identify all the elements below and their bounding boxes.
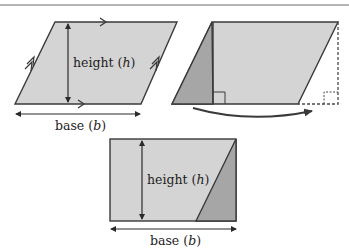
move-arrow-icon (193, 108, 312, 117)
rectangle-panel: height (h) base (b) (110, 139, 236, 248)
rect-height-label: height (h) (147, 172, 209, 187)
rect-base-label: base (b) (150, 233, 201, 248)
parallelogram-panel: height (h) base (b) (15, 18, 177, 133)
cut-and-move-panel (172, 22, 338, 117)
right-angle-marker-dashed-icon (324, 92, 338, 104)
parallelogram-area-diagram: height (h) base (b) height (h) (0, 0, 349, 251)
cut-triangle (172, 22, 213, 104)
base-label: base (b) (55, 118, 106, 133)
height-label: height (h) (73, 55, 135, 70)
